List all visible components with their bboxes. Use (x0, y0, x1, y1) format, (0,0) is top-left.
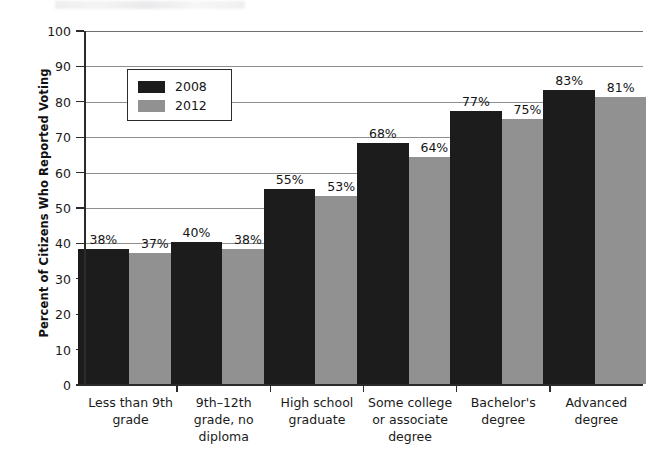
x-label-line: degree (355, 428, 465, 445)
y-axis-tick-label: 0 (0, 378, 71, 393)
bar-value-label: 83% (555, 73, 583, 88)
y-axis-tick (76, 243, 84, 244)
y-axis-tick (76, 101, 84, 102)
legend-label: 2008 (175, 79, 207, 94)
bar-2008-6 (543, 90, 595, 384)
legend-item: 2012 (138, 96, 231, 115)
bar-value-label: 81% (607, 80, 635, 95)
y-axis-tick (76, 30, 84, 31)
bar-2012-6 (595, 97, 647, 384)
x-label-line: diploma (169, 428, 279, 445)
y-axis-tick-label: 50 (0, 201, 71, 216)
y-axis-tick-label: 80 (0, 94, 71, 109)
y-axis-tick-label: 90 (0, 59, 71, 74)
y-axis-tick-label: 10 (0, 342, 71, 357)
y-axis-line (84, 31, 86, 385)
y-axis-tick-label: 70 (0, 130, 71, 145)
y-axis-tick (76, 384, 84, 385)
gridline (84, 31, 643, 32)
legend: 2008 2012 (127, 69, 232, 121)
bar-value-label: 38% (89, 232, 117, 247)
x-axis-tick (270, 385, 271, 392)
x-label-line: degree (541, 411, 651, 428)
scan-artifact (55, 1, 245, 9)
bar-2008-5 (450, 111, 502, 384)
bar-chart: Percent of Citizens Who Reported Voting … (0, 0, 670, 462)
y-axis-tick (76, 66, 84, 67)
y-axis-tick-label: 30 (0, 271, 71, 286)
x-axis-category-label: Advanceddegree (541, 394, 651, 428)
y-axis-tick-label: 20 (0, 307, 71, 322)
bar-value-label: 37% (141, 236, 169, 251)
bar-2008-2 (171, 242, 223, 384)
bar-2008-3 (264, 189, 316, 384)
x-label-line: Advanced (541, 394, 651, 411)
y-axis-tick (76, 207, 84, 208)
bar-value-label: 68% (369, 126, 397, 141)
legend-swatch-2012-icon (138, 100, 165, 112)
bar-value-label: 40% (183, 225, 211, 240)
y-axis-tick-label: 100 (0, 24, 71, 39)
legend-swatch-2008-icon (138, 81, 165, 93)
bar-value-label: 55% (276, 172, 304, 187)
legend-label: 2012 (175, 98, 207, 113)
bar-value-label: 77% (462, 94, 490, 109)
y-axis-tick (76, 137, 84, 138)
bar-2008-4 (357, 143, 409, 384)
x-axis-tick (456, 385, 457, 392)
bar-value-label: 75% (514, 102, 542, 117)
x-axis-line (84, 384, 643, 386)
bar-value-label: 38% (234, 232, 262, 247)
y-axis-tick-label: 40 (0, 236, 71, 251)
legend-item: 2008 (138, 77, 231, 96)
x-axis-tick (176, 385, 177, 392)
gridline (84, 66, 643, 67)
x-axis-tick (363, 385, 364, 392)
y-axis-tick-label: 60 (0, 165, 71, 180)
bar-value-label: 53% (327, 179, 355, 194)
bar-value-label: 64% (420, 140, 448, 155)
y-axis-tick (76, 172, 84, 173)
x-axis-tick (549, 385, 550, 392)
